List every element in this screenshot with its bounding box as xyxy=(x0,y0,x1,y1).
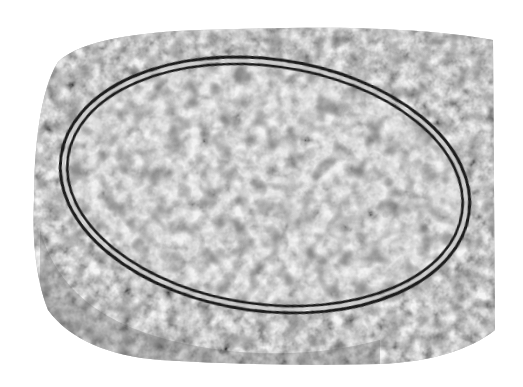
micrograph xyxy=(0,0,523,387)
